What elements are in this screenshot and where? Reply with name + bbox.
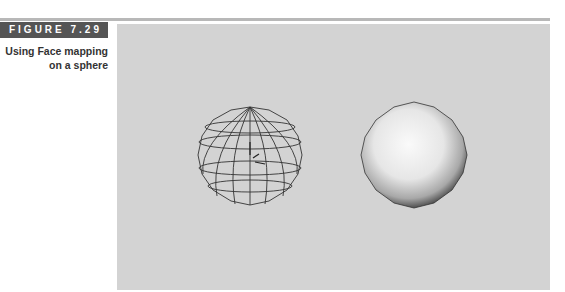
shaded-sphere <box>361 102 467 208</box>
figure-caption: Using Face mapping on a sphere <box>0 44 108 72</box>
top-rule <box>0 18 550 21</box>
figure-label: FIGURE 7.29 <box>0 22 108 38</box>
wireframe-sphere <box>198 107 302 205</box>
viewport-panel <box>117 24 550 290</box>
